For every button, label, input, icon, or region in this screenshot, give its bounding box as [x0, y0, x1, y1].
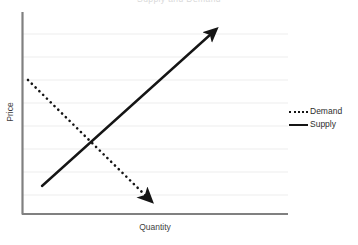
legend-item-demand[interactable]: Demand [289, 105, 357, 118]
solid-line-icon [289, 119, 308, 130]
legend-label-supply: Supply [310, 119, 336, 130]
y-axis-title: Price [5, 84, 15, 140]
chart-legend: Demand Supply [289, 105, 357, 131]
x-axis-title: Quantity [0, 222, 310, 232]
legend-item-supply[interactable]: Supply [289, 118, 357, 131]
legend-label-demand: Demand [310, 106, 342, 117]
demand-curve [28, 80, 146, 196]
supply-demand-chart: Supply and Demand [0, 0, 358, 245]
dotted-line-icon [289, 106, 308, 117]
